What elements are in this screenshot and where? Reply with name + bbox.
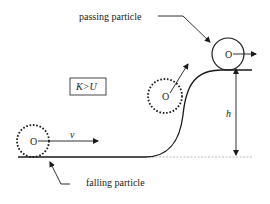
climbing-particle: O: [148, 64, 188, 113]
velocity-label: v: [70, 129, 75, 140]
climbing-velocity-arrow: [170, 64, 188, 93]
passing-leader-line: [158, 16, 210, 42]
energy-diagram: h O v O O K>U passing particle falling p…: [0, 0, 270, 204]
falling-center-label: O: [30, 136, 37, 147]
passing-particle: O: [212, 38, 256, 70]
falling-particle: O v: [17, 125, 98, 157]
falling-leader-line: [50, 162, 70, 184]
passing-particle-label: passing particle: [79, 11, 142, 22]
passing-center-label: O: [225, 49, 232, 60]
falling-particle-label: falling particle: [86, 177, 145, 188]
height-label: h: [226, 108, 231, 119]
condition-label: K>U: [75, 81, 97, 92]
climbing-center-label: O: [162, 91, 169, 102]
track-curve: [18, 70, 252, 157]
